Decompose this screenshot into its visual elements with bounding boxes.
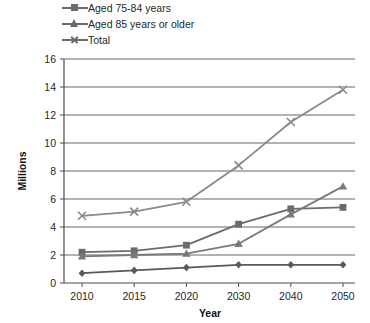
svg-text:2030: 2030 — [227, 290, 251, 302]
x-axis-ticks: 201020152020203020402050 — [70, 283, 355, 302]
svg-text:2040: 2040 — [279, 290, 303, 302]
series-unlabeled-0 — [79, 261, 347, 277]
data-point — [340, 204, 347, 211]
data-point — [183, 242, 190, 249]
x-axis-title: Year — [199, 307, 221, 319]
data-point — [235, 161, 243, 169]
data-point — [131, 267, 138, 275]
series-total — [78, 86, 347, 220]
svg-text:6: 6 — [50, 193, 56, 205]
svg-text:16: 16 — [44, 53, 56, 65]
data-series-group — [78, 86, 347, 277]
series-aged-85-years-or-older — [78, 182, 347, 259]
data-point — [234, 240, 242, 247]
svg-text:4: 4 — [50, 221, 56, 233]
svg-text:2: 2 — [50, 249, 56, 261]
y-axis-title: Millions — [16, 151, 28, 190]
data-point — [340, 261, 347, 269]
svg-text:12: 12 — [44, 109, 56, 121]
plot-area: 0246810121416 201020152020203020402050 M… — [0, 0, 370, 323]
data-point — [339, 182, 347, 189]
y-axis-ticks: 0246810121416 — [44, 53, 64, 289]
data-point — [79, 269, 86, 277]
svg-text:14: 14 — [44, 81, 56, 93]
chart-container: Aged 75-84 years Aged 85 years or older … — [0, 0, 370, 323]
svg-text:2050: 2050 — [331, 290, 355, 302]
svg-text:2010: 2010 — [70, 290, 94, 302]
svg-text:10: 10 — [44, 137, 56, 149]
data-point — [287, 118, 295, 126]
data-point — [235, 261, 242, 269]
svg-text:2020: 2020 — [175, 290, 199, 302]
data-point — [183, 264, 190, 272]
line-chart-svg: 0246810121416 201020152020203020402050 M… — [0, 0, 370, 323]
data-point — [287, 261, 294, 269]
svg-text:8: 8 — [50, 165, 56, 177]
svg-text:2015: 2015 — [123, 290, 147, 302]
data-point — [235, 221, 242, 228]
svg-text:0: 0 — [50, 277, 56, 289]
